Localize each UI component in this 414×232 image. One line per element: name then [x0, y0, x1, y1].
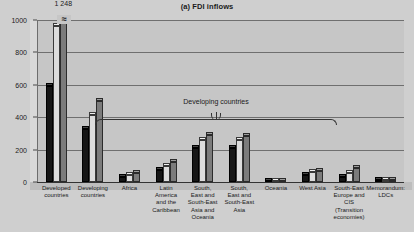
bar-face: [346, 173, 353, 182]
bar-top: [206, 132, 213, 135]
bar-top: [272, 178, 279, 181]
axis-break-marker: ≈: [57, 15, 71, 24]
bar-2006: [346, 173, 353, 182]
bar-face: [339, 177, 346, 182]
y-tick-mark-400: [33, 117, 37, 118]
bar-2006: [382, 180, 389, 182]
bar-2005: [192, 148, 199, 182]
bar-top: [375, 177, 382, 180]
bar-2006: [126, 175, 133, 182]
bar-2005: [156, 170, 163, 182]
bar-2007: [206, 135, 213, 182]
bar-face: [82, 129, 89, 182]
bar-face: [156, 170, 163, 182]
bar-top: [199, 137, 206, 140]
data-label-value: 1 248: [55, 0, 73, 7]
bar-top: [302, 172, 309, 175]
bar-2006: [199, 140, 206, 182]
bar-top: [389, 177, 396, 180]
bar-top: [265, 178, 272, 181]
bar-face: [163, 166, 170, 182]
bar-2007: [133, 173, 140, 182]
y-axis-tick-label: 600: [3, 81, 27, 88]
y-axis-tick-label: 800: [3, 49, 27, 56]
y-tick-mark-0: [33, 182, 37, 183]
bar-face: [199, 140, 206, 182]
bar-top: [133, 170, 140, 173]
bar-top: [382, 177, 389, 180]
bar-face: [60, 20, 67, 182]
bar-2005: [119, 177, 126, 182]
bar-top: [119, 174, 126, 177]
bar-face: [126, 175, 133, 182]
bar-2005: [82, 129, 89, 182]
y-axis-tick-label: 200: [3, 146, 27, 153]
bar-2006: [236, 140, 243, 182]
y-tick-mark-800: [33, 52, 37, 53]
x-axis-labels: Developed countriesDeveloping countriesA…: [38, 185, 414, 232]
bar-face: [192, 148, 199, 182]
bar-top: [192, 145, 199, 148]
bar-top: [46, 83, 53, 86]
bar-top: [156, 167, 163, 170]
bar-top: [236, 137, 243, 140]
bar-2005: [229, 148, 236, 182]
bar-2007: ≈1 248: [60, 20, 67, 182]
y-tick-mark-200: [33, 149, 37, 150]
gridline-0: [37, 182, 404, 183]
bar-face: [302, 175, 309, 182]
bar-face: [316, 171, 323, 183]
bar-top: [170, 159, 177, 162]
bar-face: [229, 148, 236, 182]
brace-stem: [216, 112, 217, 119]
bar-top: [163, 163, 170, 166]
bar-2005: [375, 180, 382, 182]
bar-top: [82, 126, 89, 129]
bar-2007: [316, 171, 323, 183]
bar-face: [46, 86, 53, 182]
bar-2006: [272, 181, 279, 183]
bar-2007: [279, 181, 286, 183]
bar-face: [206, 135, 213, 182]
y-axis-tick-label: 1000: [3, 17, 27, 24]
bar-face: [309, 172, 316, 182]
bar-top: [353, 165, 360, 168]
bar-face: [243, 136, 250, 182]
bar-2006: [163, 166, 170, 182]
bar-face: [353, 168, 360, 182]
bar-2007: [389, 180, 396, 182]
bar-face: [389, 180, 396, 182]
bar-top: [279, 178, 286, 181]
bar-2007: [243, 136, 250, 182]
bar-2007: [170, 162, 177, 182]
bar-face: [53, 26, 60, 182]
bar-2005: [339, 177, 346, 182]
bar-face: [382, 180, 389, 182]
bar-2006: [309, 172, 316, 182]
bar-2007: [353, 168, 360, 182]
bar-group: [367, 20, 404, 182]
bar-top: [339, 174, 346, 177]
bar-top: [229, 145, 236, 148]
bar-face: [133, 173, 140, 182]
x-axis-label: Memorandum: LDCs: [361, 185, 411, 199]
annotation-brace: [95, 113, 337, 125]
y-axis-tick-label: 0: [3, 179, 27, 186]
annotation-label: Developing countries: [95, 98, 337, 105]
bar-top: [309, 169, 316, 172]
bar-2005: [46, 86, 53, 182]
bar-top: [316, 168, 323, 171]
fdi-inflows-chart: (a) FDI inflows 2005 2006 2007 020040060…: [0, 0, 414, 232]
bar-2006: [53, 26, 60, 182]
bar-2005: [302, 175, 309, 182]
bar-face: [119, 177, 126, 182]
bar-face: [170, 162, 177, 182]
y-tick-mark-600: [33, 84, 37, 85]
bar-top: [243, 133, 250, 136]
bar-group: ≈1 248: [38, 20, 75, 182]
y-tick-mark-1000: [33, 20, 37, 21]
bar-face: [236, 140, 243, 182]
bar-top: [126, 172, 133, 175]
bar-2005: [265, 181, 272, 183]
bar-top: [346, 170, 353, 173]
